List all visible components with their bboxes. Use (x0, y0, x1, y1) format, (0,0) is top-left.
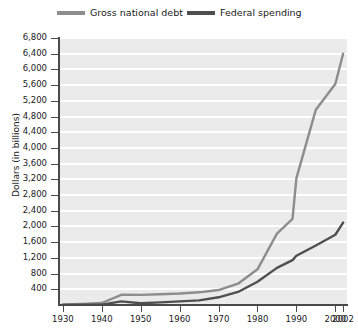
legend-item-gross-national-debt: Gross national debt (57, 4, 183, 22)
y-axis-label: 3,600 (1, 159, 47, 168)
x-axis-tick (343, 306, 344, 312)
y-axis-tick (51, 117, 58, 118)
y-axis-label: 3,200 (1, 174, 47, 183)
y-axis-label: 6,800 (1, 33, 47, 42)
x-axis-label: 2002 (323, 314, 358, 324)
x-axis-tick (141, 306, 142, 312)
x-axis-tick (219, 306, 220, 312)
y-axis-tick (51, 85, 58, 86)
x-axis-label: 1970 (199, 314, 239, 324)
y-axis-label: 4,000 (1, 143, 47, 152)
y-axis-label: 4,400 (1, 127, 47, 136)
y-axis-label: 6,000 (1, 64, 47, 73)
x-axis-label: 1950 (121, 314, 161, 324)
x-axis-tick (63, 306, 64, 312)
y-axis-tick (51, 69, 58, 70)
y-axis-label: 4,800 (1, 112, 47, 121)
legend-swatch-gross-national-debt (57, 11, 85, 15)
x-axis-label: 1960 (160, 314, 200, 324)
y-axis-tick (51, 242, 58, 243)
x-axis-tick (180, 306, 181, 312)
x-axis-tick (102, 306, 103, 312)
chart-legend: Gross national debt Federal spending (0, 4, 352, 24)
y-axis-label: 1,600 (1, 237, 47, 246)
y-axis-tick (51, 164, 58, 165)
y-axis-label: 800 (1, 269, 47, 278)
y-axis-label: 2,400 (1, 206, 47, 215)
y-axis-tick (51, 54, 58, 55)
y-axis-tick (51, 132, 58, 133)
y-axis-tick (51, 195, 58, 196)
x-axis-label: 1940 (82, 314, 122, 324)
y-axis-tick (51, 148, 58, 149)
x-axis-tick (257, 306, 258, 312)
y-axis-label: 5,600 (1, 80, 47, 89)
x-axis-tick (296, 306, 297, 312)
y-axis-label: 6,400 (1, 49, 47, 58)
legend-label-federal-spending: Federal spending (220, 7, 302, 19)
y-axis-tick (51, 274, 58, 275)
y-axis-tick (51, 226, 58, 227)
y-axis-label: 400 (1, 284, 47, 293)
y-axis-tick (51, 101, 58, 102)
y-axis-tick (51, 289, 58, 290)
x-axis-tick (335, 306, 336, 312)
y-axis-label: 5,200 (1, 96, 47, 105)
plot-area (59, 38, 347, 305)
series-line-gross-national-debt (63, 54, 343, 305)
y-axis-label: 1,200 (1, 253, 47, 262)
y-axis-tick (51, 258, 58, 259)
legend-label-gross-national-debt: Gross national debt (90, 7, 183, 19)
y-axis-label: 2,000 (1, 221, 47, 230)
y-axis-title: Dollars (in billions) (11, 90, 21, 220)
x-axis-label: 1930 (43, 314, 83, 324)
x-axis-label: 1990 (276, 314, 316, 324)
series-layer (59, 38, 347, 305)
y-axis-tick (51, 179, 58, 180)
y-axis-tick (51, 211, 58, 212)
y-axis-tick (51, 38, 58, 39)
y-axis-line (58, 37, 60, 306)
y-axis-label: 2,800 (1, 190, 47, 199)
legend-swatch-federal-spending (187, 11, 215, 15)
x-axis-label: 1980 (237, 314, 277, 324)
legend-item-federal-spending: Federal spending (187, 4, 302, 22)
